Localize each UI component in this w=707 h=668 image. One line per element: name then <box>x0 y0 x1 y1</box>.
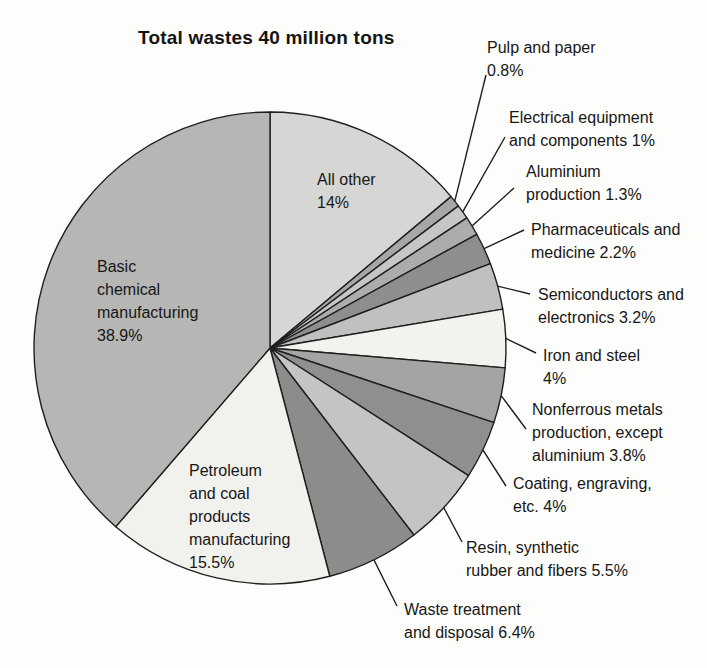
leader-line-nonferrous-metals <box>501 396 526 429</box>
pie-chart-figure: Total wastes 40 million tons All other14… <box>0 0 707 668</box>
leader-line-resin-rubber-fibers <box>444 508 462 542</box>
leader-line-aluminium-production <box>472 188 514 226</box>
pie-chart: All other14%Pulp and paper0.8%Electrical… <box>0 0 707 668</box>
leader-line-waste-treatment <box>374 560 397 606</box>
leader-line-coating-engraving <box>483 450 506 486</box>
slice-label-pulp-and-paper: Pulp and paper0.8% <box>487 39 596 79</box>
slice-label-coating-engraving: Coating, engraving,etc. 4% <box>513 475 652 515</box>
slice-label-waste-treatment: Waste treatmentand disposal 6.4% <box>404 601 535 641</box>
slice-label-nonferrous-metals: Nonferrous metalsproduction, exceptalumi… <box>532 401 663 464</box>
leader-line-electrical-equipment <box>463 137 505 212</box>
slice-label-electrical-equipment: Electrical equipmentand components 1% <box>509 109 655 149</box>
leader-line-semiconductors <box>498 286 530 294</box>
slice-label-aluminium-production: Aluminiumproduction 1.3% <box>526 163 642 203</box>
leader-line-iron-and-steel <box>506 338 536 353</box>
leader-line-pulp-and-paper <box>455 75 486 201</box>
slice-label-semiconductors: Semiconductors andelectronics 3.2% <box>538 286 684 326</box>
slice-label-iron-and-steel: Iron and steel4% <box>543 347 640 387</box>
slice-label-resin-rubber-fibers: Resin, syntheticrubber and fibers 5.5% <box>466 539 628 579</box>
leader-line-pharmaceuticals <box>484 230 524 249</box>
slice-label-pharmaceuticals: Pharmaceuticals andmedicine 2.2% <box>531 221 680 261</box>
